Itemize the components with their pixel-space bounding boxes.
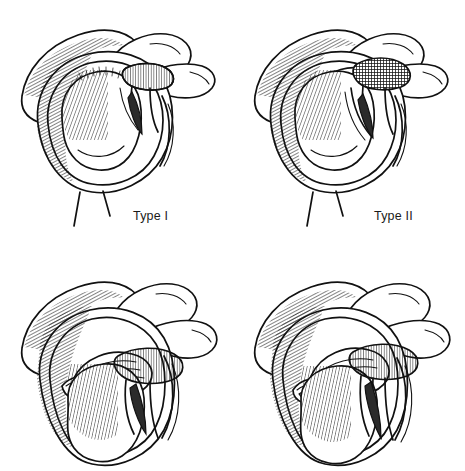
biceps-tendon-hatch-type-4 — [349, 344, 418, 379]
illustration-type-3 — [0, 252, 232, 471]
glenoid-neck-stems-type-1 — [74, 191, 110, 226]
glenoid-neck-stems-type-2 — [307, 191, 343, 226]
biceps-tendon-hatch-type-1 — [122, 64, 173, 91]
biceps-tendon-hatch-type-2 — [353, 58, 410, 90]
illustration-type-1 — [0, 0, 232, 220]
illustration-type-4 — [233, 252, 465, 471]
panel-label-type-1: Type I — [133, 210, 168, 223]
panel-type-2 — [233, 0, 465, 220]
panel-label-type-2: Type II — [374, 210, 413, 223]
panel-type-3 — [0, 252, 232, 471]
panel-type-1 — [0, 0, 232, 220]
illustration-type-2 — [233, 0, 465, 220]
panel-type-4 — [233, 252, 465, 471]
